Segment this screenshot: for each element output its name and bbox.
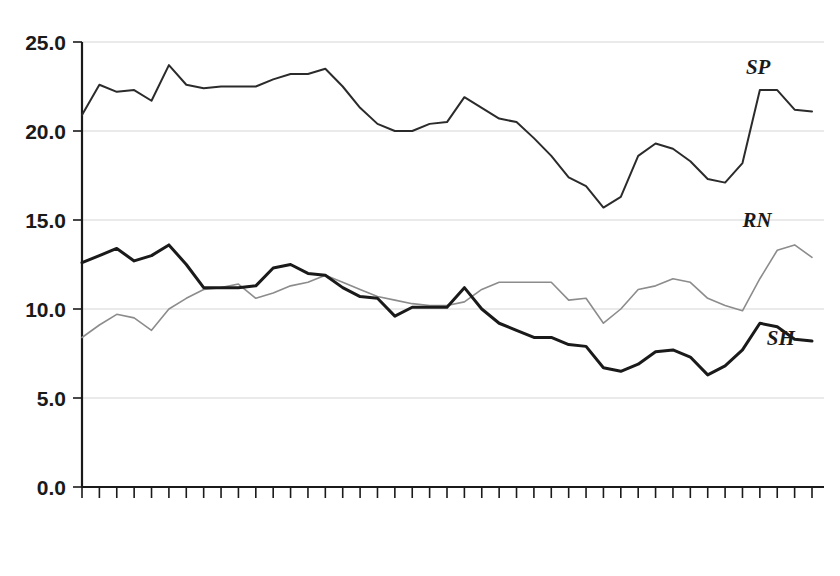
y-tick-label: 25.0 (25, 31, 66, 54)
y-axis-tick-labels: 0.05.010.015.020.025.0 (25, 31, 82, 499)
series-label-sh: SH (767, 326, 796, 350)
y-tick-label: 0.0 (37, 476, 66, 499)
gridlines (82, 42, 824, 487)
y-tick-label: 15.0 (25, 209, 66, 232)
series-line-rn (82, 245, 812, 338)
series-line-sp (82, 65, 812, 207)
y-tick-label: 10.0 (25, 298, 66, 321)
line-chart: 0.05.010.015.020.025.0 19701972197419761… (0, 0, 840, 576)
series-label-sp: SP (746, 55, 771, 79)
y-tick-label: 5.0 (37, 387, 66, 410)
y-tick-label: 20.0 (25, 120, 66, 143)
chart-canvas: 0.05.010.015.020.025.0 19701972197419761… (0, 0, 840, 576)
series-line-sh (82, 245, 812, 375)
x-tick-marks (82, 487, 812, 498)
series-label-rn: RN (741, 208, 772, 232)
axes (82, 42, 824, 487)
series-annotations: SPRNSH (741, 55, 795, 350)
